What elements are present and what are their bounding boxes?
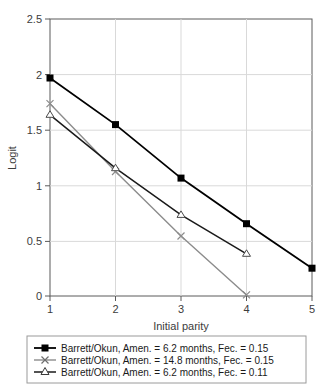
y-tick-label-1.5: 1.5 bbox=[27, 124, 42, 136]
x-tick-label-2: 2 bbox=[112, 303, 118, 315]
legend-item-2[interactable]: Barrett/Okun, Amen. = 14.8 months, Fec. … bbox=[34, 355, 274, 366]
chart-legend: Barrett/Okun, Amen. = 6.2 months, Fec. =… bbox=[27, 336, 306, 383]
filled-square-marker-icon bbox=[42, 345, 49, 352]
y-tick-label-2.5: 2.5 bbox=[27, 13, 42, 25]
legend-label-1: Barrett/Okun, Amen. = 6.2 months, Fec. =… bbox=[61, 343, 269, 354]
y-tick-label-1: 1 bbox=[36, 180, 42, 192]
y-axis-title: Logit bbox=[6, 146, 18, 170]
y-tick-label-2: 2 bbox=[36, 69, 42, 81]
chart-figure: 2.5 2 1.5 1 0.5 0 1 2 3 4 5 Initial pari… bbox=[0, 0, 333, 386]
x-tick-label-3: 3 bbox=[178, 303, 184, 315]
x-tick-label-4: 4 bbox=[243, 303, 249, 315]
x-tick-label-1: 1 bbox=[47, 303, 53, 315]
x-tick-label-5: 5 bbox=[309, 303, 315, 315]
legend-label-3: Barrett/Okun, Amen. = 6.2 months, Fec. =… bbox=[61, 367, 268, 378]
legend-item-3[interactable]: Barrett/Okun, Amen. = 6.2 months, Fec. =… bbox=[34, 367, 268, 378]
logit-line-chart: 2.5 2 1.5 1 0.5 0 1 2 3 4 5 Initial pari… bbox=[0, 0, 333, 386]
legend-label-2: Barrett/Okun, Amen. = 14.8 months, Fec. … bbox=[61, 355, 274, 366]
y-tick-label-0.5: 0.5 bbox=[27, 235, 42, 247]
y-tick-label-0: 0 bbox=[36, 290, 42, 302]
x-axis-title: Initial parity bbox=[153, 320, 209, 332]
legend-item-1[interactable]: Barrett/Okun, Amen. = 6.2 months, Fec. =… bbox=[34, 343, 269, 354]
